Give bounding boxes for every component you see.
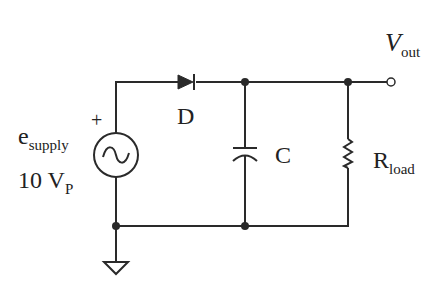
junction-dot bbox=[112, 222, 120, 230]
diode-icon bbox=[178, 74, 194, 90]
junction-dot bbox=[241, 222, 249, 230]
source-value-label: 10 VP bbox=[18, 168, 73, 192]
vout-sub: out bbox=[401, 44, 420, 60]
output-terminal-icon bbox=[387, 78, 395, 86]
junction-dot bbox=[344, 78, 352, 86]
resistor-sub: load bbox=[389, 161, 415, 177]
ac-source-icon bbox=[94, 133, 138, 177]
resistor-label: Rload bbox=[373, 148, 415, 172]
diode-text: D bbox=[177, 103, 194, 129]
resistor-icon bbox=[344, 139, 352, 168]
wire-bottom-bus bbox=[116, 168, 348, 226]
source-name-label: esupply bbox=[18, 124, 69, 148]
vout-label: Vout bbox=[385, 30, 420, 56]
source-value-main: 10 V bbox=[18, 167, 65, 193]
junction-dot bbox=[241, 78, 249, 86]
wire-source-top bbox=[116, 82, 178, 133]
capacitor-text: C bbox=[275, 142, 291, 168]
vout-main: V bbox=[385, 28, 401, 57]
plus-sign: + bbox=[91, 109, 102, 131]
ground-icon bbox=[104, 262, 128, 274]
source-value-sub: P bbox=[65, 181, 73, 197]
diode-label: D bbox=[177, 104, 194, 128]
capacitor-label: C bbox=[275, 143, 291, 167]
source-name-sub: supply bbox=[29, 137, 69, 153]
resistor-main: R bbox=[373, 147, 389, 173]
source-name-main: e bbox=[18, 123, 29, 149]
plus-label: + bbox=[91, 110, 102, 130]
